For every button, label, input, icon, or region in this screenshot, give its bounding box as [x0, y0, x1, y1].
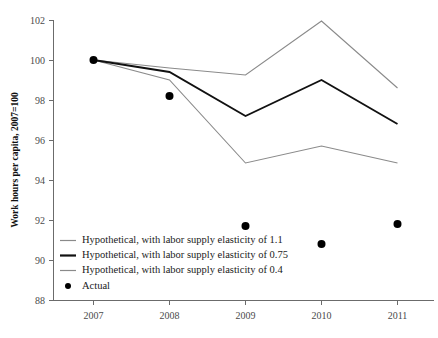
legend-label-elasticity-0-4: Hypothetical, with labor supply elastici… — [82, 264, 283, 275]
y-tick-label-94: 94 — [35, 175, 45, 186]
legend-label-elasticity-0-75: Hypothetical, with labor supply elastici… — [82, 249, 288, 260]
series-line-elasticity-1-1 — [94, 21, 398, 88]
y-axis-ticks: 102 100 98 96 94 92 90 88 — [30, 15, 54, 306]
x-tick-label-2011: 2011 — [388, 310, 408, 321]
data-point-actual — [394, 220, 402, 228]
chart-container: Work hours per capita, 2007=100 102 100 … — [0, 0, 438, 338]
y-tick-label-96: 96 — [35, 135, 45, 146]
series-line-elasticity-0-75 — [94, 60, 398, 124]
legend-swatch-actual — [65, 283, 71, 289]
x-axis-ticks: 2007 2008 2009 2010 2011 — [84, 301, 408, 322]
y-tick-label-100: 100 — [30, 55, 45, 66]
y-axis-title-text: Work hours per capita, 2007=100 — [10, 92, 20, 228]
legend-label-elasticity-1-1: Hypothetical, with labor supply elastici… — [82, 234, 283, 245]
data-point-actual — [166, 92, 174, 100]
data-point-actual — [318, 240, 326, 248]
data-point-actual — [90, 56, 98, 64]
legend-label-actual: Actual — [82, 280, 110, 291]
data-point-actual — [242, 222, 250, 230]
y-tick-label-102: 102 — [30, 15, 45, 26]
x-tick-label-2008: 2008 — [160, 310, 180, 321]
series-markers-actual — [90, 56, 402, 248]
y-tick-label-88: 88 — [35, 295, 45, 306]
x-tick-label-2007: 2007 — [84, 310, 104, 321]
y-tick-label-92: 92 — [35, 215, 45, 226]
work-hours-line-chart: Work hours per capita, 2007=100 102 100 … — [0, 0, 438, 338]
y-tick-label-90: 90 — [35, 255, 45, 266]
chart-legend: Hypothetical, with labor supply elastici… — [60, 234, 288, 291]
y-tick-label-98: 98 — [35, 95, 45, 106]
x-tick-label-2009: 2009 — [236, 310, 256, 321]
x-tick-label-2010: 2010 — [312, 310, 332, 321]
y-axis-title: Work hours per capita, 2007=100 — [10, 92, 20, 228]
